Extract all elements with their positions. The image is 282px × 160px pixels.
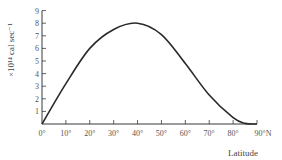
y-tick-label: 9 [35,7,39,16]
data-curve [42,23,257,124]
x-tick-label: 30° [108,129,119,138]
x-tick-label: 60° [180,129,191,138]
x-tick-label: 70° [204,129,215,138]
x-axis-ticks: 0°10°20°30°40°50°60°70°80°90°N [38,120,271,138]
y-tick-label: 7 [35,32,39,41]
x-tick-label: 0° [38,129,45,138]
x-tick-label: 80° [228,129,239,138]
x-tick-label: 40° [132,129,143,138]
x-axis-title: Latitude [228,148,258,158]
y-tick-label: 2 [35,95,39,104]
y-tick-label: 8 [35,19,39,28]
axes [42,11,257,124]
x-tick-label: 10° [60,129,71,138]
x-tick-label: 20° [84,129,95,138]
y-axis-title: ×10¹⁴ cal sec⁻¹ [6,23,16,77]
y-tick-label: 5 [35,57,39,66]
y-tick-label: 1 [35,107,39,116]
y-axis-ticks: 123456789 [35,7,46,117]
y-tick-label: 3 [35,82,39,91]
chart: 0°10°20°30°40°50°60°70°80°90°N 123456789… [0,0,282,160]
y-tick-label: 6 [35,44,39,53]
x-tick-label: 90°N [255,129,272,138]
x-tick-label: 50° [156,129,167,138]
y-tick-label: 4 [35,70,39,79]
